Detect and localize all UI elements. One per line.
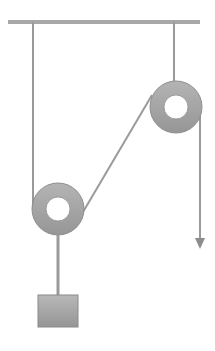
pulley-diagram — [0, 0, 215, 351]
hanging-block — [38, 295, 78, 327]
fixed-pulley — [150, 81, 202, 133]
pull-arrow-icon — [195, 238, 205, 249]
rope-diagonal — [83, 95, 152, 212]
ceiling-bar — [8, 20, 200, 24]
movable-pulley — [32, 183, 84, 235]
